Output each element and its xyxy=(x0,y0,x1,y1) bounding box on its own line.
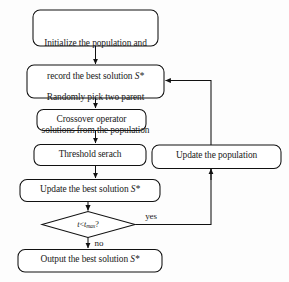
node-update-best-solution xyxy=(20,180,160,202)
node-output-best-solution xyxy=(18,250,162,273)
node-crossover-operator xyxy=(37,110,146,131)
node-pick-parents xyxy=(27,65,164,98)
node-decision-stop-condition xyxy=(42,212,135,238)
node-initialize-population xyxy=(33,10,158,46)
node-threshold-search xyxy=(34,145,146,166)
flowchart-canvas xyxy=(0,0,289,282)
node-update-population xyxy=(152,145,281,169)
